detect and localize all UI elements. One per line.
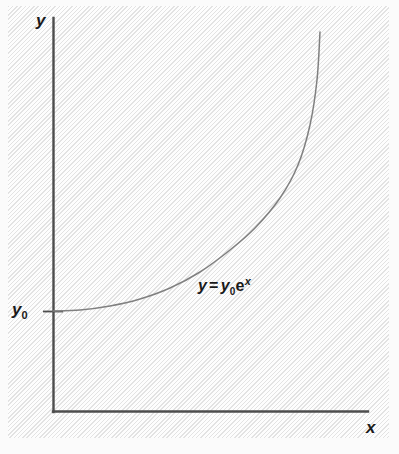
equation-equals-sign: = xyxy=(209,277,219,294)
equation-lhs: y xyxy=(198,277,207,294)
figure-container: y x y0 y=y0ex xyxy=(0,0,399,454)
exponential-curve xyxy=(53,32,320,311)
equation-exponent: x xyxy=(245,275,251,287)
x-axis-label: x xyxy=(366,419,375,436)
y-axis-label: y xyxy=(36,12,45,29)
equation-coefficient: y xyxy=(221,277,230,294)
y-intercept-subscript: 0 xyxy=(21,309,27,321)
y-intercept-label: y0 xyxy=(12,301,28,321)
plot-area xyxy=(0,0,399,454)
curve-equation-label: y=y0ex xyxy=(198,276,251,297)
equation-base: e xyxy=(236,277,245,294)
